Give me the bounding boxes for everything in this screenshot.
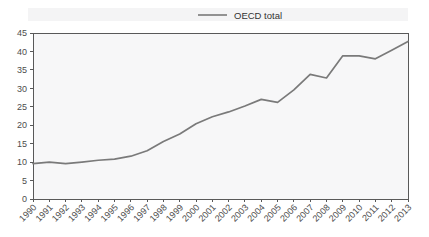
x-tick-label: 1995 [99, 202, 120, 223]
x-tick-label: 2012 [376, 202, 397, 223]
y-axis: 051015202530354045 [17, 28, 33, 204]
y-tick-label: 30 [17, 84, 27, 94]
y-tick-label: 15 [17, 139, 27, 149]
y-tick-label: 0 [22, 194, 27, 204]
x-tick-label: 2003 [229, 202, 250, 223]
x-tick-label: 1993 [66, 202, 87, 223]
x-tick-label: 1994 [82, 202, 103, 223]
x-tick-label: 1998 [148, 202, 169, 223]
x-tick-label: 2000 [180, 202, 201, 223]
x-tick-label: 1997 [131, 202, 152, 223]
y-tick-label: 25 [17, 102, 27, 112]
x-tick-label: 2006 [278, 202, 299, 223]
plot-area-background [33, 33, 408, 199]
y-tick-label: 10 [17, 157, 27, 167]
x-tick-label: 2008 [311, 202, 332, 223]
x-tick-label: 1999 [164, 202, 185, 223]
x-tick-label: 2001 [197, 202, 218, 223]
x-tick-label: 2005 [262, 202, 283, 223]
x-tick-label: 1992 [50, 202, 71, 223]
y-tick-label: 40 [17, 47, 27, 57]
y-tick-label: 5 [22, 176, 27, 186]
x-tick-label: 2004 [245, 202, 266, 223]
x-tick-label: 2007 [294, 202, 315, 223]
x-tick-label: 2009 [327, 202, 348, 223]
chart-figure: OECD total 051015202530354045 1990199119… [0, 0, 429, 237]
legend-label-oecd-total: OECD total [234, 10, 282, 21]
y-tick-label: 20 [17, 120, 27, 130]
x-tick-label: 2011 [360, 202, 381, 223]
x-axis: 1990199119921993199419951996199719981999… [17, 199, 413, 224]
x-tick-label: 1990 [17, 202, 38, 223]
x-tick-label: 2002 [213, 202, 234, 223]
x-tick-label: 2013 [392, 202, 413, 223]
x-tick-label: 1991 [33, 202, 54, 223]
y-tick-label: 35 [17, 65, 27, 75]
line-chart: OECD total 051015202530354045 1990199119… [0, 0, 429, 237]
x-tick-label: 2010 [343, 202, 364, 223]
y-tick-label: 45 [17, 28, 27, 38]
x-tick-label: 1996 [115, 202, 136, 223]
